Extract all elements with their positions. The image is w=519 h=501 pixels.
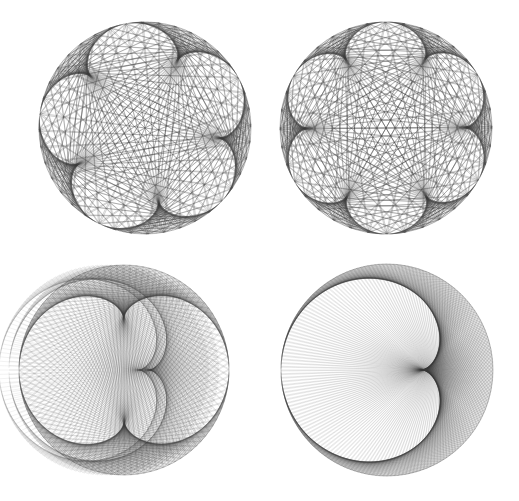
chord-lines (280, 22, 492, 234)
pattern-top-left (0, 0, 260, 250)
pattern-bottom-right (260, 250, 519, 501)
string-art-svg (260, 250, 519, 501)
pattern-bottom-left (0, 250, 260, 501)
string-art-svg (0, 250, 260, 501)
string-art-svg (260, 0, 519, 250)
chord-lines (281, 264, 493, 476)
pattern-top-right (260, 0, 519, 250)
chord-lines (39, 22, 251, 234)
string-art-svg (0, 0, 260, 250)
